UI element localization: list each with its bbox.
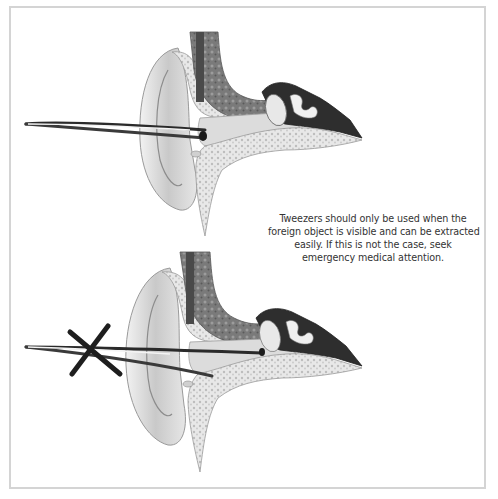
caption-line-2: foreign object is visible and can be ext… — [268, 225, 478, 238]
caption-line-1: Tweezers should only be used when the — [268, 212, 478, 225]
ear-illustration-bottom — [0, 250, 498, 499]
ear-cross-section — [126, 252, 362, 472]
